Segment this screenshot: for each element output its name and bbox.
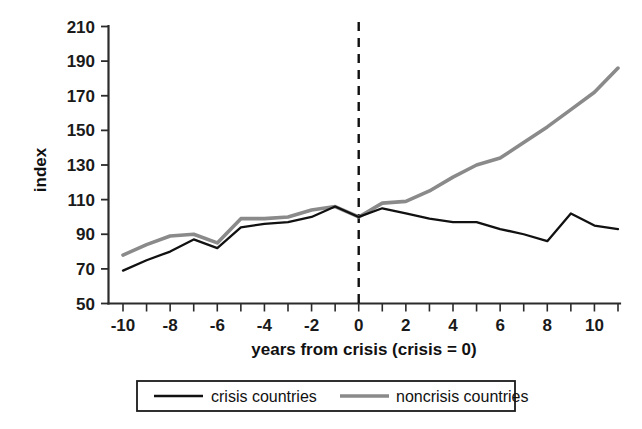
x-tick-label-4: 4 [448,316,458,335]
y-tick-label-190: 190 [67,52,95,71]
x-tick-label-10: 10 [585,316,604,335]
x-tick-label-8: 8 [543,316,552,335]
y-tick-label-130: 130 [67,156,95,175]
y-axis-title: index [31,147,50,192]
y-tick-label-110: 110 [68,191,95,210]
y-axis-title-text: index [31,147,50,192]
y-tick-label-170: 170 [67,87,95,106]
x-tick-label--10: -10 [111,316,136,335]
x-tick-label-0: 0 [354,316,363,335]
x-axis-title: years from crisis (crisis = 0) [251,340,476,359]
x-tick-label--2: -2 [304,316,319,335]
x-tick-label-6: 6 [495,316,504,335]
x-tick-label--8: -8 [163,316,178,335]
chart-legend: crisis countries noncrisis countries [137,381,529,411]
legend-label-noncrisis-countries: noncrisis countries [396,388,529,405]
y-tick-label-210: 210 [67,18,95,37]
y-tick-label-150: 150 [67,121,95,140]
x-tick-label-2: 2 [401,316,410,335]
x-tick-label--4: -4 [257,316,273,335]
legend-label-crisis-countries: crisis countries [211,388,317,405]
y-tick-label-90: 90 [76,225,95,244]
y-tick-label-70: 70 [76,260,95,279]
chart-figure: index 507090110130150170190210 -10-8-6-4… [0,0,642,429]
figure-background [0,0,642,429]
y-tick-label-50: 50 [76,295,95,314]
x-tick-label--6: -6 [210,316,225,335]
